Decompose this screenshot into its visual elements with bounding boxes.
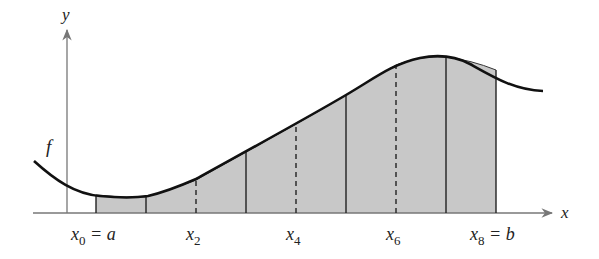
shaded-area <box>96 57 496 213</box>
y-axis-label: y <box>60 5 70 24</box>
function-label: f <box>46 136 54 157</box>
tick-label-x2: x2 <box>185 224 201 248</box>
simpsons-rule-diagram: y x f x0 = a x2 x4 x6 x8 = b <box>0 0 599 259</box>
tick-label-x0: x0 = a <box>70 224 116 248</box>
svg-text:x8 = b: x8 = b <box>469 224 515 248</box>
tick-label-x6: x6 <box>385 224 401 248</box>
svg-text:x4: x4 <box>285 224 301 248</box>
svg-text:x2: x2 <box>185 224 201 248</box>
svg-text:x6: x6 <box>385 224 401 248</box>
x-axis-label: x <box>560 203 569 222</box>
tick-label-x4: x4 <box>285 224 301 248</box>
svg-text:x0 = a: x0 = a <box>70 224 116 248</box>
tick-label-x8: x8 = b <box>469 224 515 248</box>
